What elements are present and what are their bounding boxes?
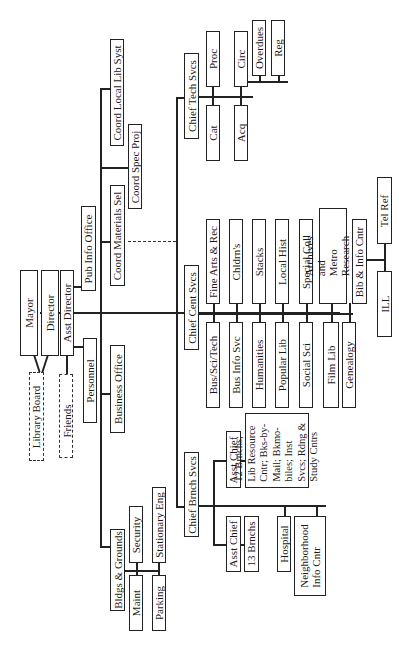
node-parking: Parking [152,575,166,631]
node-reg: Reg [271,20,285,76]
node-social-sci: Social Sci [299,322,313,408]
node-label: Personnel [84,359,96,402]
node-chief-brnch-svcs: Chief Brnch Svcs [184,452,199,537]
node-label: Bus/Sci/Tech [207,336,219,395]
node-label: Business Office [112,354,124,424]
cent-pair-3 [259,303,261,323]
node-label: Fine Arts & Rec [207,226,219,298]
node-label: Asst Director [61,284,73,343]
node-fine-arts-rec: Fine Arts & Rec [206,219,220,304]
bib-sub-line [366,259,384,261]
node-stationary-eng: Stationary Eng [152,487,166,563]
node-personnel: Personnel [83,338,97,423]
node-label: Chief Cent Svcs [186,272,198,344]
node-business-office: Business Office [110,345,125,433]
neighborhood-link [316,505,318,516]
node-label: Reg [272,39,284,57]
node-label: Cat [207,125,219,140]
node-label: Film Lib [325,346,337,385]
node-label: 12 Brnchs; Lib Resource Cntr; Bks-by-Mai… [233,420,321,482]
node-chief-tech-svcs: Chief Tech Svcs [184,53,199,139]
node-coord-local-lib-syst: Coord Local Lib Syst [110,39,124,146]
node-childrens: Chldrn's [229,219,243,304]
tech-sub-line [198,96,253,98]
node-label: Bldgs & Grounds [112,531,124,609]
node-label: Coord Materials Sel [112,191,124,280]
node-bib-info-cntr: Bib & Info Cntr [352,219,367,304]
node-genealogy: Genealogy [342,322,356,408]
node-bus-info-svc: Bus Info Svc [229,322,243,408]
chief-column-line [176,97,178,507]
brnch-sub-line [198,505,326,507]
node-archives: Archives and MetroResearch Cntr [319,208,347,304]
cent-pair-1 [213,303,215,323]
cent-pair-2 [236,303,238,323]
node-label: Chldrn's [230,243,242,280]
node-label: Mayor [23,298,35,327]
node-label: Parking [153,586,165,620]
node-local-hist: Local Hist [275,219,289,304]
node-label: Genealogy [343,341,355,389]
cent-sub-line [198,313,353,315]
node-label: Proc [207,49,219,69]
staff-column-line [100,88,102,546]
node-label-line1: Neighborhood [298,524,310,588]
asst-chief-b-link [213,544,227,546]
node-label: Hospital [278,525,290,562]
node-label: Bib & Info Cntr [354,226,366,297]
node-maint: Maint [129,575,143,631]
node-label: 13 Brnchs [246,522,258,567]
node-security: Security [129,506,143,563]
node-director: Director [41,270,59,356]
node-branches-12: 12 Brnchs; Lib Resource Cntr; Bks-by-Mai… [245,413,309,488]
node-proc: Proc [206,31,220,87]
node-label: Circ [235,50,247,69]
node-label: Stationary Eng [153,492,165,558]
proc-cat-link [212,86,214,106]
node-circ: Circ [234,31,248,87]
business-link [100,393,110,395]
node-label: Maint [130,590,142,616]
asst-chief-col [213,460,215,545]
node-cat: Cat [206,105,220,161]
node-label: Stacks [253,247,265,276]
node-label: Local Hist [276,238,288,284]
node-coord-materials-sel: Coord Materials Sel [110,185,125,286]
node-label: Chief Brnch Svcs [186,456,198,534]
node-label-line1: Archives and Metro [303,236,339,276]
node-chief-cent-svcs: Chief Cent Svcs [184,265,199,350]
board-link [33,356,40,372]
node-label: Popular Lib [276,339,288,391]
node-asst-director: Asst Director [60,270,74,356]
node-label: ILL [379,295,391,312]
node-mayor: Mayor [20,270,38,356]
node-bus-sci-tech: Bus/Sci/Tech [206,322,220,408]
coordmat-link [100,241,110,243]
node-film-lib: Film Lib [323,322,339,408]
dashed-link [128,241,176,242]
node-label: Humanities [253,340,265,391]
parking-stationary-link [158,562,160,575]
node-label: Friends [60,405,72,438]
board-link [41,356,48,372]
overdues-link [259,75,261,82]
node-stacks: Stacks [252,219,266,304]
cent-pair-7 [349,303,351,323]
cent-pair-4 [282,303,284,323]
circ-acq-link [240,86,242,106]
node-bldgs-grounds: Bldgs & Grounds [110,529,125,611]
node-friends: Friends [59,374,73,458]
node-label: Acq [235,124,247,142]
node-tel-ref: Tel Ref [377,177,392,244]
node-label: Director [44,295,56,332]
friends-link [66,356,68,374]
personnel-link [74,346,83,348]
node-label: Chief Tech Svcs [186,60,198,132]
telref-ill-link [384,244,386,272]
chieftech-link [176,97,184,99]
node-label: Social Sci [300,343,312,387]
node-label: Tel Ref [379,194,391,227]
node-label: Asst Chief [228,521,240,568]
node-label: Security [130,516,142,553]
node-label: Overdues [253,27,265,69]
